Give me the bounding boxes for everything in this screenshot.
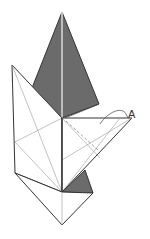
origami-diagram: A — [0, 0, 150, 239]
label-a: A — [128, 108, 136, 120]
